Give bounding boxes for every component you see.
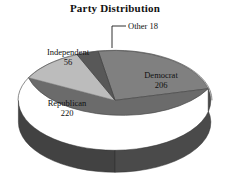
- slice-label-independent: Independent 56: [30, 47, 106, 67]
- slice-label-other-name: Other: [128, 21, 147, 31]
- slice-label-other-value: 18: [149, 21, 158, 31]
- pie-chart-figure: Party Distribution Democrat 206 Republic…: [0, 0, 230, 179]
- slice-label-independent-name: Independent: [30, 47, 106, 57]
- slice-label-democrat-value: 206: [128, 80, 194, 90]
- slice-label-republican-value: 220: [32, 108, 102, 118]
- slice-label-democrat: Democrat 206: [128, 70, 194, 90]
- slice-label-other: Other 18: [128, 21, 188, 31]
- slice-label-republican-name: Republican: [32, 98, 102, 108]
- slice-label-democrat-name: Democrat: [128, 70, 194, 80]
- other-leader-line: [112, 26, 126, 48]
- slice-label-republican: Republican 220: [32, 98, 102, 118]
- pie-chart-graphic: [0, 0, 230, 179]
- slice-label-independent-value: 56: [30, 57, 106, 67]
